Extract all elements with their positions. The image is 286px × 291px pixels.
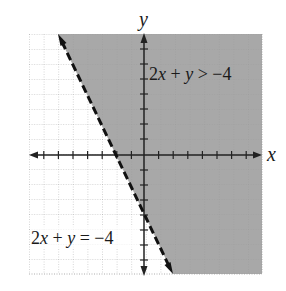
equation-label: 2x + y = −4 — [31, 228, 113, 248]
inequality-label: 2x + y > −4 — [149, 64, 231, 84]
x-axis-label: x — [266, 143, 276, 165]
y-axis-label: y — [137, 8, 148, 31]
inequality-graph: y x 2x + y > −4 2x + y = −4 — [0, 0, 286, 291]
